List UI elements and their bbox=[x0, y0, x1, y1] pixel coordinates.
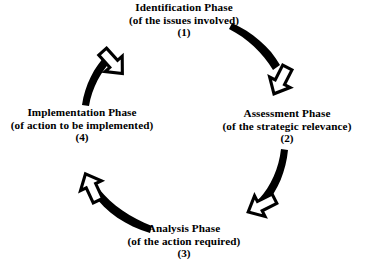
phase-subtitle-assessment: (of the strategic relevance) bbox=[208, 120, 366, 133]
phase-label-implementation: Implementation Phase (of action to be im… bbox=[1, 106, 163, 144]
phase-title-analysis: Analysis Phase bbox=[104, 222, 264, 235]
phase-number-assessment: (2) bbox=[208, 132, 366, 145]
phase-number-identification: (1) bbox=[84, 26, 284, 39]
phase-title-implementation: Implementation Phase bbox=[1, 106, 163, 119]
phase-subtitle-identification: (of the issues involved) bbox=[84, 14, 284, 27]
block-arrow-down-left-icon bbox=[243, 188, 280, 222]
phase-title-identification: Identification Phase bbox=[84, 1, 284, 14]
block-arrow-down-right-icon bbox=[264, 62, 298, 99]
phase-number-analysis: (3) bbox=[104, 247, 264, 260]
phase-label-identification: Identification Phase (of the issues invo… bbox=[84, 1, 284, 39]
diagram-canvas: Identification Phase (of the issues invo… bbox=[0, 0, 368, 270]
phase-number-implementation: (4) bbox=[1, 131, 163, 144]
phase-subtitle-analysis: (of the action required) bbox=[104, 235, 264, 248]
phase-label-assessment: Assessment Phase (of the strategic relev… bbox=[208, 107, 366, 145]
phase-label-analysis: Analysis Phase (of the action required) … bbox=[104, 222, 264, 260]
phase-subtitle-implementation: (of action to be implemented) bbox=[1, 119, 163, 132]
phase-title-assessment: Assessment Phase bbox=[208, 107, 366, 120]
